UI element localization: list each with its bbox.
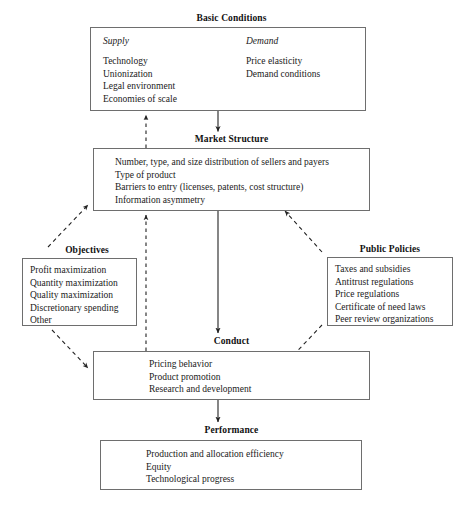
- market-structure-item: Information asymmetry: [115, 194, 329, 207]
- objectives-item: Discretionary spending: [30, 302, 118, 315]
- supply-item: Legal environment: [103, 80, 177, 93]
- public-policies-item: Taxes and subsidies: [335, 263, 433, 276]
- supply-item: Unionization: [103, 68, 177, 81]
- basic-conditions-demand-column: Demand Price elasticity Demand condition…: [246, 35, 320, 80]
- conduct-box: Pricing behavior Product promotion Resea…: [93, 351, 370, 400]
- demand-heading: Demand: [246, 35, 320, 48]
- conduct-item-list: Pricing behavior Product promotion Resea…: [149, 358, 251, 396]
- diagram-canvas: Basic Conditions Supply Technology Union…: [0, 0, 463, 513]
- performance-item-list: Production and allocation efficiency Equ…: [146, 448, 284, 486]
- basic-conditions-box: Supply Technology Unionization Legal env…: [90, 27, 366, 111]
- market-structure-item: Barriers to entry (licenses, patents, co…: [115, 181, 329, 194]
- objectives-item: Profit maximization: [30, 264, 118, 277]
- public-policies-title: Public Policies: [320, 244, 460, 254]
- performance-item: Equity: [146, 461, 284, 474]
- conduct-item: Product promotion: [149, 371, 251, 384]
- conduct-item: Pricing behavior: [149, 358, 251, 371]
- basic-conditions-supply-column: Supply Technology Unionization Legal env…: [103, 35, 177, 105]
- market-structure-item-list: Number, type, and size distribution of s…: [115, 156, 329, 206]
- public-policies-item: Antitrust regulations: [335, 276, 433, 289]
- objectives-item-list: Profit maximization Quantity maximizatio…: [30, 264, 118, 327]
- performance-item: Production and allocation efficiency: [146, 448, 284, 461]
- arrow-public-policies-to-market-structure: [285, 211, 322, 252]
- objectives-title: Objectives: [22, 245, 152, 255]
- performance-title: Performance: [0, 425, 463, 435]
- public-policies-item-list: Taxes and subsidies Antitrust regulation…: [335, 263, 433, 326]
- demand-item: Demand conditions: [246, 68, 320, 81]
- supply-heading: Supply: [103, 35, 177, 48]
- performance-item: Technological progress: [146, 473, 284, 486]
- objectives-box: Profit maximization Quantity maximizatio…: [22, 258, 137, 326]
- public-policies-box: Taxes and subsidies Antitrust regulation…: [327, 257, 453, 326]
- arrow-objectives-to-market-structure: [48, 205, 88, 247]
- objectives-item: Quantity maximization: [30, 277, 118, 290]
- supply-item: Technology: [103, 55, 177, 68]
- public-policies-item: Certificate of need laws: [335, 301, 433, 314]
- demand-item: Price elasticity: [246, 55, 320, 68]
- public-policies-item: Price regulations: [335, 288, 433, 301]
- objectives-item: Other: [30, 314, 118, 327]
- public-policies-item: Peer review organizations: [335, 313, 433, 326]
- objectives-item: Quality maximization: [30, 289, 118, 302]
- market-structure-item: Type of product: [115, 169, 329, 182]
- conduct-title: Conduct: [0, 336, 463, 346]
- conduct-item: Research and development: [149, 383, 251, 396]
- performance-box: Production and allocation efficiency Equ…: [100, 440, 362, 490]
- supply-item: Economies of scale: [103, 93, 177, 106]
- market-structure-item: Number, type, and size distribution of s…: [115, 156, 329, 169]
- basic-conditions-title: Basic Conditions: [0, 13, 463, 23]
- market-structure-box: Number, type, and size distribution of s…: [93, 148, 370, 211]
- market-structure-title: Market Structure: [0, 134, 463, 144]
